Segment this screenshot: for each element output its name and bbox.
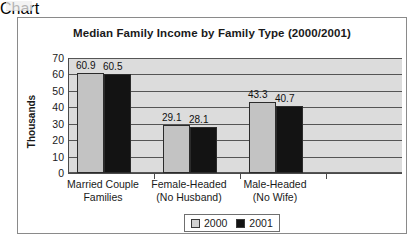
bar-label-2000-2: 29.1 bbox=[162, 113, 181, 123]
bar-2000-1 bbox=[77, 73, 104, 173]
y-axis-tick-0: 0 bbox=[38, 168, 64, 178]
category-label-line2: Families bbox=[56, 191, 150, 204]
bar-2000-2 bbox=[163, 125, 190, 173]
bar-2000-3 bbox=[249, 102, 276, 173]
chart-title: Median Family Income by Family Type (200… bbox=[18, 27, 406, 39]
category-label-line1: Male-Headed bbox=[243, 178, 306, 190]
y-axis-tick-10: 10 bbox=[38, 152, 64, 162]
category-label-2: Female-Headed(No Husband) bbox=[142, 178, 236, 204]
y-axis-tick-60: 60 bbox=[38, 69, 64, 79]
category-label-1: Married CoupleFamilies bbox=[56, 178, 150, 204]
y-axis-tick-70: 70 bbox=[38, 53, 64, 63]
category-label-line2: (No Wife) bbox=[228, 191, 322, 204]
y-axis-tick-50: 50 bbox=[38, 86, 64, 96]
bar-2001-3 bbox=[276, 106, 303, 173]
legend-swatch-2000 bbox=[191, 219, 200, 228]
category-label-line1: Married Couple bbox=[67, 178, 139, 190]
bar-label-2000-3: 43.3 bbox=[248, 90, 267, 100]
legend-item-2000: 2000 bbox=[191, 217, 227, 229]
y-axis-tick-30: 30 bbox=[38, 119, 64, 129]
bars-layer: 60.960.529.128.143.340.7 bbox=[69, 58, 402, 173]
y-axis-title: Thousands bbox=[25, 66, 39, 176]
plot-area: 60.960.529.128.143.340.7 bbox=[68, 58, 402, 174]
legend-item-2001: 2001 bbox=[236, 217, 272, 229]
bar-label-2000-1: 60.9 bbox=[76, 61, 95, 71]
bar-2001-2 bbox=[190, 127, 217, 173]
bar-2001-1 bbox=[104, 74, 131, 173]
chart-legend: 20002001 bbox=[184, 214, 280, 232]
y-axis-tick-40: 40 bbox=[38, 102, 64, 112]
bar-label-2001-3: 40.7 bbox=[275, 94, 294, 104]
legend-label-2000: 2000 bbox=[204, 217, 227, 229]
y-axis-title-label: Thousands bbox=[27, 94, 38, 147]
category-label-line2: (No Husband) bbox=[142, 191, 236, 204]
bar-label-2001-2: 28.1 bbox=[189, 115, 208, 125]
legend-swatch-2001 bbox=[236, 219, 245, 228]
category-label-line1: Female-Headed bbox=[151, 178, 226, 190]
legend-label-2001: 2001 bbox=[249, 217, 272, 229]
category-axis-labels: Married CoupleFamiliesFemale-Headed(No H… bbox=[68, 178, 401, 208]
y-axis-tick-20: 20 bbox=[38, 135, 64, 145]
category-label-3: Male-Headed(No Wife) bbox=[228, 178, 322, 204]
scan-artifact bbox=[6, 1, 32, 11]
bar-label-2001-1: 60.5 bbox=[103, 62, 122, 72]
chart-frame: Median Family Income by Family Type (200… bbox=[17, 17, 407, 234]
y-axis-tick-labels: 706050403020100 bbox=[38, 51, 64, 167]
